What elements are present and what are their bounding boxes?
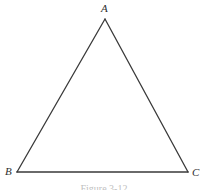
- edge-AC: [105, 19, 188, 172]
- triangle-figure: A B C Figure 3-12: [0, 0, 208, 190]
- figure-caption: Figure 3-12: [0, 184, 208, 190]
- vertex-label-b: B: [5, 166, 12, 177]
- edge-AB: [17, 19, 105, 172]
- vertex-label-c: C: [192, 167, 199, 178]
- vertex-label-a: A: [101, 3, 108, 14]
- triangle-diagram: [0, 0, 208, 190]
